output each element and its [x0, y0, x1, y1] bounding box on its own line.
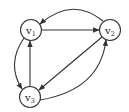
- node-v1: v1: [21, 20, 42, 41]
- edge-v1-to-v3: [14, 38, 24, 89]
- node-v2: v2: [100, 20, 121, 41]
- directed-graph: v1 v2 v3: [0, 0, 129, 112]
- edge-v3-to-v2: [40, 40, 106, 100]
- edge-v2-to-v1: [40, 9, 103, 24]
- node-v3: v3: [20, 87, 41, 108]
- edge-v2-to-v3: [39, 37, 102, 90]
